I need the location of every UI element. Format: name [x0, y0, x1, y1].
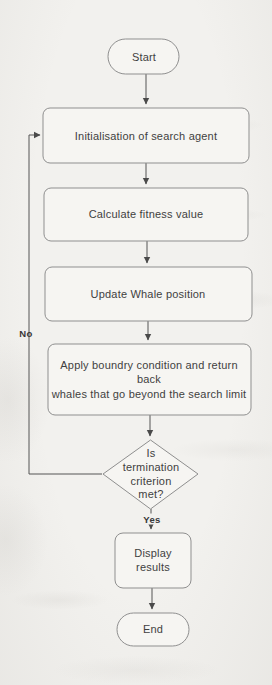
display-node-label: Display results	[118, 546, 188, 575]
flowchart-diagram	[0, 0, 272, 685]
boundary-node-label: Apply boundry condition and return back …	[49, 358, 249, 401]
end-node-label: End	[143, 622, 163, 636]
scanned-flowchart-page: Start Initialisation of search agent Cal…	[0, 0, 272, 685]
start-node-label: Start	[132, 50, 156, 64]
fitness-node-label: Calculate fitness value	[51, 207, 241, 221]
update-node-label: Update Whale position	[53, 287, 243, 301]
yes-edge-label: Yes	[141, 514, 162, 525]
no-edge-label: No	[17, 328, 34, 339]
decision-node-label: Is termination criterion met?	[106, 447, 196, 502]
init-node-label: Initialisation of search agent	[51, 129, 241, 143]
